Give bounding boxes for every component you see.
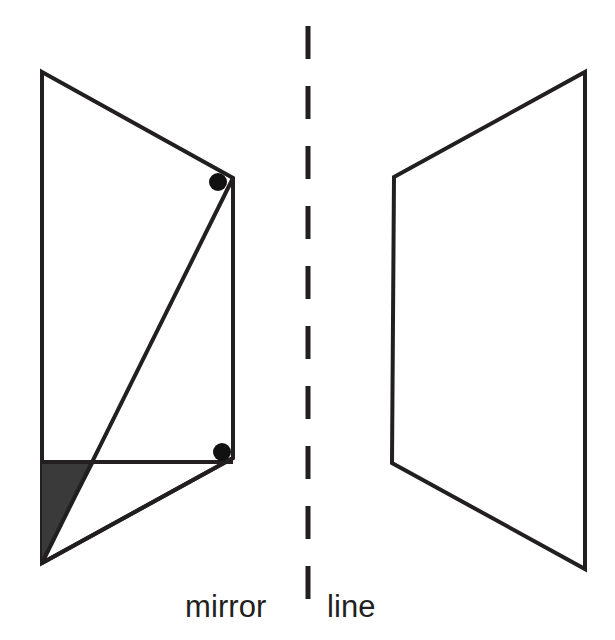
upper-vertex-dot: [209, 173, 227, 191]
figure-root: mirror line: [0, 0, 615, 640]
lower-vertex-dot: [213, 443, 231, 461]
left-internal-diagonal: [42, 178, 233, 563]
right-figure-group: [392, 72, 585, 569]
right-shape-outline: [392, 72, 585, 569]
left-figure-group: [42, 72, 233, 563]
reflection-diagram: [0, 0, 615, 640]
